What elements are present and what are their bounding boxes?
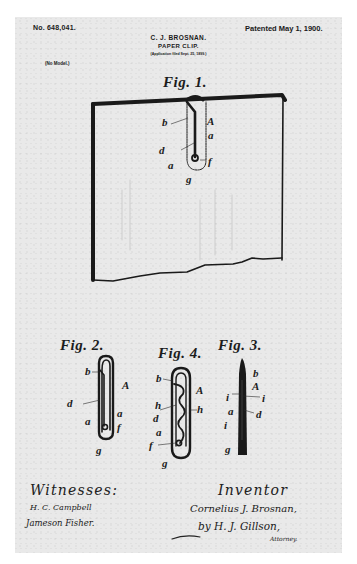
signature-flourish	[0, 0, 357, 564]
